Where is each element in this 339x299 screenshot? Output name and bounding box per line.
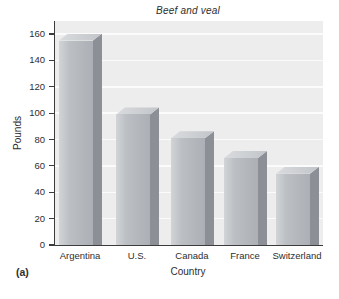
y-tickmark-140 bbox=[49, 60, 54, 61]
y-ticklabel-160: 160 bbox=[11, 29, 45, 39]
y-ticklabel-60: 60 bbox=[11, 161, 45, 171]
y-tickmark-100 bbox=[49, 113, 54, 114]
y-tickmark-60 bbox=[49, 165, 54, 166]
y-ticklabel-0: 0 bbox=[11, 240, 45, 250]
bar-us bbox=[116, 107, 159, 245]
y-ticklabel-140: 140 bbox=[11, 55, 45, 65]
y-tickmark-120 bbox=[49, 86, 54, 87]
y-tickmark-160 bbox=[49, 33, 54, 34]
bar-canada bbox=[171, 131, 214, 245]
bar-side-face bbox=[93, 34, 102, 245]
chart-figure: Beef and veal Pounds 0204060801001201401… bbox=[0, 0, 339, 299]
y-tickmark-0 bbox=[49, 244, 54, 245]
y-ticklabel-20: 20 bbox=[11, 214, 45, 224]
y-tickmark-40 bbox=[49, 192, 54, 193]
bar-front-face bbox=[224, 158, 258, 245]
bar-side-face bbox=[205, 131, 214, 245]
x-category-label-switzerland: Switzerland bbox=[257, 250, 337, 261]
bar-side-face bbox=[150, 107, 159, 245]
bar-side-face bbox=[258, 151, 267, 245]
y-ticklabel-100: 100 bbox=[11, 108, 45, 118]
bar-argentina bbox=[59, 34, 102, 245]
x-axis-label: Country bbox=[54, 266, 322, 277]
bar-france bbox=[224, 151, 267, 245]
bar-front-face bbox=[171, 138, 205, 245]
bar-side-face bbox=[310, 167, 319, 245]
bar-front-face bbox=[276, 174, 310, 245]
chart-title: Beef and veal bbox=[54, 5, 322, 16]
y-tickmark-20 bbox=[49, 218, 54, 219]
y-ticklabel-80: 80 bbox=[11, 135, 45, 145]
panel-label: (a) bbox=[16, 266, 29, 278]
plot-area: Pounds 020406080100120140160ArgentinaU.S… bbox=[54, 21, 323, 246]
bar-front-face bbox=[116, 114, 150, 245]
bar-front-face bbox=[59, 41, 93, 245]
y-ticklabel-120: 120 bbox=[11, 82, 45, 92]
bar-switzerland bbox=[276, 167, 319, 245]
y-tickmark-80 bbox=[49, 139, 54, 140]
y-ticklabel-40: 40 bbox=[11, 187, 45, 197]
